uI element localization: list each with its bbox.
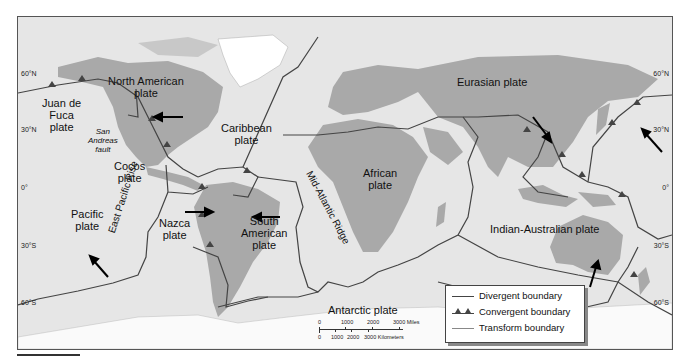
legend-item-divergent: Divergent boundary: [452, 290, 562, 301]
lat-label-left-0: 0°: [21, 184, 28, 191]
tectonic-map: 60°N 30°N 0° 30°S 60°S 60°N 30°N 0° 30°S…: [17, 16, 673, 350]
label-pacific-plate: Pacificplate: [71, 208, 103, 232]
lat-label-left-30s: 30°S: [21, 242, 36, 249]
scale-bar: 0 1000 2000 3000 Miles 0 1000 2000 3000 …: [318, 319, 428, 349]
label-african-plate: Africanplate: [363, 167, 397, 191]
lat-label-left-60s: 60°S: [21, 299, 36, 306]
legend: Divergent boundary Convergent boundary T…: [445, 285, 585, 343]
page-divider: [17, 354, 80, 356]
lat-label-left-60n: 60°N: [21, 70, 37, 77]
lat-label-left-30n: 30°N: [21, 126, 37, 133]
legend-item-convergent: Convergent boundary: [452, 306, 570, 317]
lat-label-right-60s: 60°S: [654, 299, 669, 306]
legend-item-transform: Transform boundary: [452, 322, 564, 333]
north-america-shape: [58, 57, 223, 167]
greenland-shape: [218, 35, 288, 87]
lat-label-right-0: 0°: [662, 184, 669, 191]
label-nazca-plate: Nazcaplate: [159, 217, 190, 241]
transform-line-icon: [452, 323, 474, 333]
label-north-american-plate: North Americanplate: [108, 75, 184, 99]
label-eurasian-plate: Eurasian plate: [457, 76, 527, 88]
divergent-line-icon: [452, 291, 474, 301]
label-juan-de-fuca-plate: Juan deFucaplate: [42, 97, 81, 133]
label-antarctic-plate: Antarctic plate: [328, 304, 398, 316]
lat-label-right-60n: 60°N: [653, 70, 669, 77]
label-caribbean-plate: Caribbeanplate: [221, 122, 272, 146]
lat-label-right-30n: 30°N: [653, 126, 669, 133]
lat-label-right-30s: 30°S: [654, 242, 669, 249]
label-san-andreas-fault: SanAndreasfault: [88, 127, 118, 154]
label-south-american-plate: SouthAmericanplate: [241, 215, 287, 251]
convergent-triangles-icon: [452, 307, 474, 317]
label-indian-australian-plate: Indian-Australian plate: [490, 223, 599, 235]
